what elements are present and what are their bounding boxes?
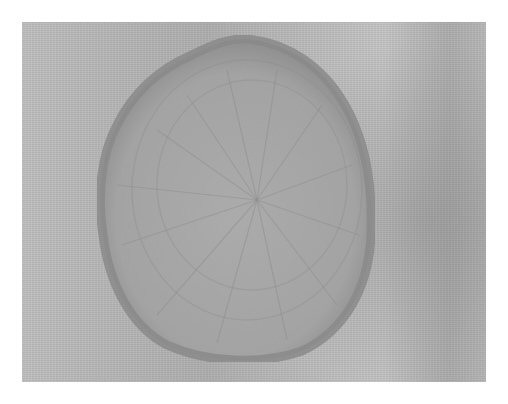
- micrograph: [22, 22, 486, 382]
- specimen-body: [100, 39, 371, 360]
- oval-specimen: [97, 35, 375, 362]
